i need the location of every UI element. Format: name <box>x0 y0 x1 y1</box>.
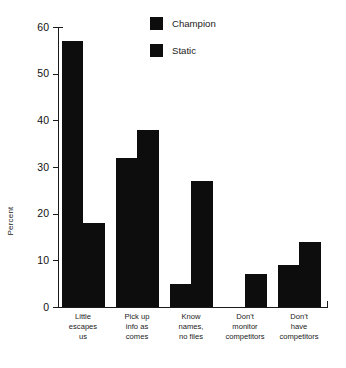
y-axis-tick-label: 60 <box>20 22 49 33</box>
bar-static-0 <box>83 223 105 307</box>
bar-champion-1 <box>116 158 138 307</box>
bar-champion-0 <box>62 41 84 307</box>
bar-static-4 <box>299 242 321 307</box>
plot-area <box>58 27 328 307</box>
y-axis-tick-label: 50 <box>20 68 49 79</box>
y-axis-tick-label: 20 <box>20 208 49 219</box>
y-axis-title: Percent <box>6 186 15 256</box>
bar-static-2 <box>191 181 213 307</box>
bar-champion-4 <box>278 265 300 307</box>
y-axis-tick-label: 0 <box>20 302 49 313</box>
legend-item-champion: Champion <box>150 17 216 30</box>
legend-label: Champion <box>172 18 216 29</box>
legend-swatch-icon <box>150 44 163 57</box>
bar-static-3 <box>245 274 267 307</box>
y-axis-tick-label: 40 <box>20 115 49 126</box>
y-axis-tick-label: 30 <box>20 162 49 173</box>
bar-champion-2 <box>170 284 192 307</box>
x-axis-line <box>58 307 328 308</box>
legend-item-static: Static <box>150 44 196 57</box>
legend-swatch-icon <box>150 17 163 30</box>
y-axis-tick-label: 10 <box>20 255 49 266</box>
x-axis-category-label: Don't have competitors <box>266 312 332 343</box>
bar-static-1 <box>137 130 159 307</box>
bar-chart: Percent 0102030405060 Little escapes usP… <box>0 0 346 368</box>
legend-label: Static <box>172 45 196 56</box>
